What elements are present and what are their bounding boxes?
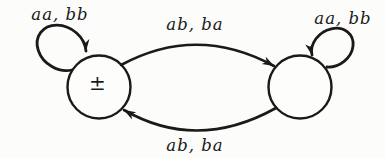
- top-arc-label: ab, ba: [166, 15, 223, 34]
- left-to-right-edge: [121, 45, 274, 66]
- right-state-circle: [269, 56, 332, 119]
- right-to-left-edge: [124, 108, 276, 131]
- automaton-diagram: aa, bb aa, bb ab, ba ab, ba ±: [0, 0, 385, 158]
- bottom-arc-label: ab, ba: [166, 136, 223, 155]
- automaton-svg: aa, bb aa, bb ab, ba ab, ba ±: [0, 0, 385, 158]
- right-self-loop-label: aa, bb: [314, 9, 371, 28]
- left-self-loop-label: aa, bb: [31, 5, 88, 24]
- left-state-label: ±: [89, 71, 106, 95]
